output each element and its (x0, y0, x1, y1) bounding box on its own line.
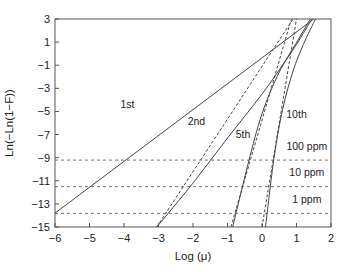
annotation-label: 10 ppm (289, 166, 324, 178)
weibull-chart: −6−5−4−3−2−1012 31−1−3−5−7−9−11−13−15 1s… (0, 0, 351, 274)
annotation-label: 5th (236, 128, 251, 140)
x-tick-label: 1 (293, 232, 299, 244)
y-tick-label: −13 (31, 198, 50, 210)
y-tick-label: 1 (44, 36, 50, 48)
annotation-label: 1st (120, 98, 134, 110)
x-axis-title: Log (μ) (175, 250, 212, 262)
series-2nd-asymptote (157, 19, 293, 227)
x-tick-label: −1 (221, 232, 234, 244)
y-tick-label: −9 (37, 152, 50, 164)
annotation-label: 2nd (188, 115, 206, 127)
y-tick-label: −5 (37, 105, 50, 117)
y-tick-label: −11 (32, 175, 50, 187)
x-tick-label: −2 (187, 232, 200, 244)
x-axis-ticks: −6−5−4−3−2−1012 (49, 223, 334, 244)
y-tick-label: 3 (44, 13, 50, 25)
y-tick-label: −1 (37, 59, 50, 71)
y-axis-title: Ln(−Ln(1−F)) (3, 89, 15, 157)
series-2nd (157, 19, 311, 227)
x-tick-label: −6 (49, 232, 62, 244)
x-tick-label: −4 (118, 232, 131, 244)
annotation-label: 10th (286, 108, 307, 120)
x-tick-label: 0 (259, 232, 265, 244)
y-tick-label: −15 (31, 221, 50, 233)
x-tick-label: −3 (152, 232, 165, 244)
x-tick-label: 2 (328, 232, 334, 244)
y-tick-label: −7 (37, 129, 50, 141)
annotation-label: 1 ppm (292, 193, 321, 205)
annotations: 1st2nd5th10th100 ppm10 ppm1 ppm (120, 98, 327, 205)
curves (55, 19, 315, 227)
y-tick-label: −3 (37, 82, 50, 94)
series-5th-asymptote (231, 19, 291, 227)
x-tick-label: −5 (83, 232, 96, 244)
annotation-label: 100 ppm (286, 140, 327, 152)
